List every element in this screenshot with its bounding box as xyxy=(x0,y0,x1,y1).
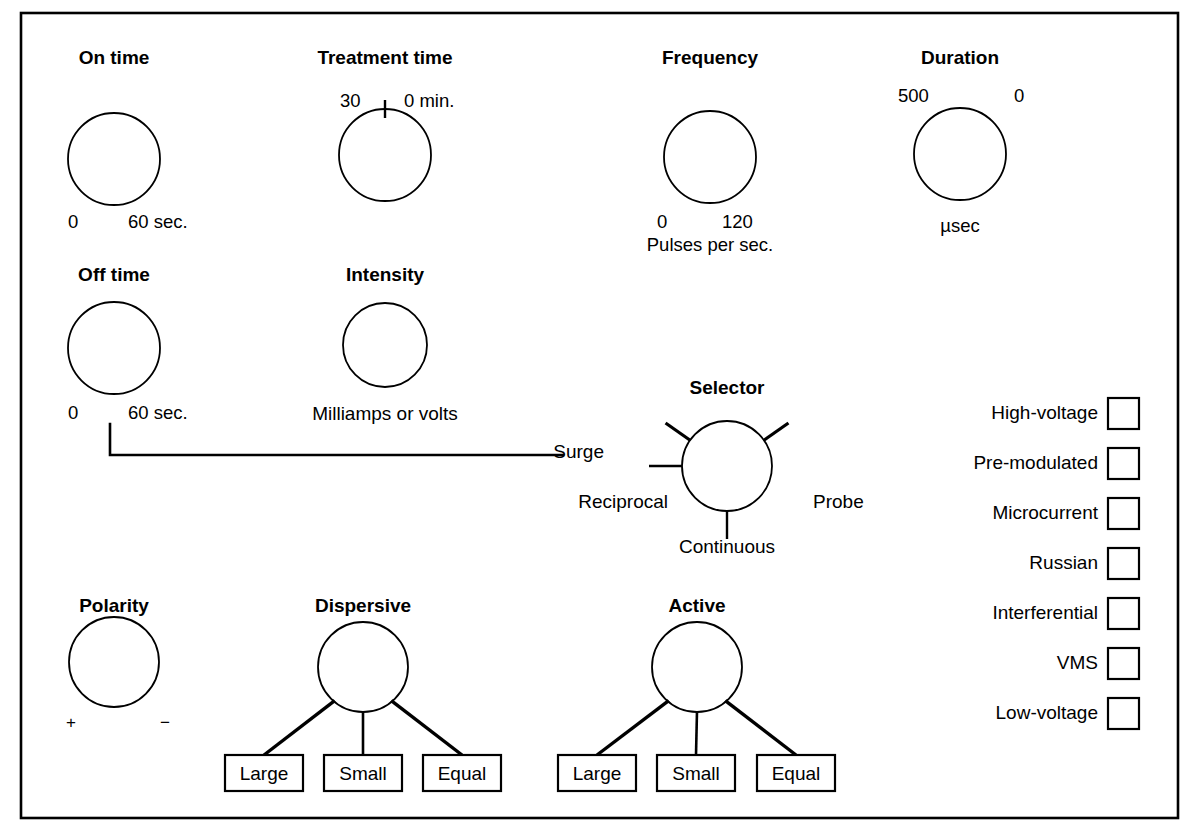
frequency-unit-label: Pulses per sec. xyxy=(647,236,773,255)
electrode-box-label-dispersive-equal: Equal xyxy=(438,764,487,783)
knob-scale-max-treatment-time: 0 min. xyxy=(404,92,454,111)
knob-title-on-time: On time xyxy=(79,48,150,67)
mode-label-interferential: Interferential xyxy=(992,603,1098,622)
selector-option-continuous[interactable]: Continuous xyxy=(679,537,775,556)
selector-title: Selector xyxy=(690,378,765,397)
mode-checkbox-microcurrent[interactable] xyxy=(1108,498,1139,529)
selector-spoke-probe xyxy=(764,423,789,440)
mode-checkbox-interferential[interactable] xyxy=(1108,598,1139,629)
mode-checkbox-pre-modulated[interactable] xyxy=(1108,448,1139,479)
electrode-box-label-dispersive-large: Large xyxy=(240,764,289,783)
knob-on-time[interactable] xyxy=(68,113,160,205)
mode-checkbox-russian[interactable] xyxy=(1108,548,1139,579)
group-title-dispersive: Dispersive xyxy=(315,596,411,615)
mode-label-vms: VMS xyxy=(1057,653,1098,672)
knob-polarity[interactable] xyxy=(69,617,159,707)
duration-unit-label: µsec xyxy=(940,217,979,236)
electrode-box-label-active-small: Small xyxy=(672,764,720,783)
selector-option-surge[interactable]: Surge xyxy=(553,442,604,461)
knob-duration[interactable] xyxy=(914,108,1006,200)
mode-checkbox-low-voltage[interactable] xyxy=(1108,698,1139,729)
knob-off-time[interactable] xyxy=(68,302,160,394)
selector-option-probe[interactable]: Probe xyxy=(813,492,864,511)
surge-connector-line xyxy=(110,424,563,455)
mode-checkbox-high-voltage[interactable] xyxy=(1108,398,1139,429)
knob-title-polarity: Polarity xyxy=(79,596,149,615)
knob-scale-min-polarity: + xyxy=(66,714,76,731)
knob-scale-max-on-time: 60 sec. xyxy=(128,213,188,232)
device-panel-diagram: On time060 sec.Treatment time300 min.Fre… xyxy=(0,0,1191,838)
intensity-unit-label: Milliamps or volts xyxy=(312,404,458,423)
electrode-box-label-dispersive-small: Small xyxy=(339,764,387,783)
knob-scale-max-frequency: 120 xyxy=(722,213,753,232)
knob-scale-max-polarity: − xyxy=(160,714,170,731)
electrode-spoke-dispersive-large xyxy=(264,701,335,755)
mode-label-high-voltage: High-voltage xyxy=(991,403,1098,422)
electrode-spoke-active-small xyxy=(696,711,697,755)
knob-scale-min-off-time: 0 xyxy=(68,404,78,423)
knob-scale-min-duration: 500 xyxy=(898,87,929,106)
knob-title-duration: Duration xyxy=(921,48,999,67)
mode-label-pre-modulated: Pre-modulated xyxy=(973,453,1098,472)
knob-intensity[interactable] xyxy=(343,303,427,387)
electrode-box-label-active-large: Large xyxy=(573,764,622,783)
knob-title-frequency: Frequency xyxy=(662,48,758,67)
electrode-spoke-active-large xyxy=(597,701,669,755)
knob-selector[interactable] xyxy=(682,421,772,511)
knob-scale-min-treatment-time: 30 xyxy=(340,92,361,111)
mode-label-russian: Russian xyxy=(1029,553,1098,572)
knob-title-treatment-time: Treatment time xyxy=(317,48,452,67)
knob-title-off-time: Off time xyxy=(78,265,150,284)
knob-scale-min-on-time: 0 xyxy=(68,213,78,232)
knob-scale-min-frequency: 0 xyxy=(657,213,667,232)
selector-option-reciprocal[interactable]: Reciprocal xyxy=(578,492,668,511)
knob-title-intensity: Intensity xyxy=(346,265,424,284)
knob-dispersive[interactable] xyxy=(318,622,408,712)
knob-frequency[interactable] xyxy=(664,111,756,203)
electrode-spoke-dispersive-equal xyxy=(391,701,462,755)
selector-spoke-reciprocal xyxy=(666,423,691,440)
knob-scale-max-duration: 0 xyxy=(1014,87,1024,106)
knob-active[interactable] xyxy=(652,622,742,712)
group-title-active: Active xyxy=(668,596,725,615)
mode-label-low-voltage: Low-voltage xyxy=(996,703,1098,722)
knob-scale-max-off-time: 60 sec. xyxy=(128,404,188,423)
electrode-spoke-active-equal xyxy=(725,701,796,755)
electrode-box-label-active-equal: Equal xyxy=(772,764,821,783)
mode-checkbox-vms[interactable] xyxy=(1108,648,1139,679)
mode-label-microcurrent: Microcurrent xyxy=(992,503,1098,522)
knob-treatment-time[interactable] xyxy=(339,109,431,201)
